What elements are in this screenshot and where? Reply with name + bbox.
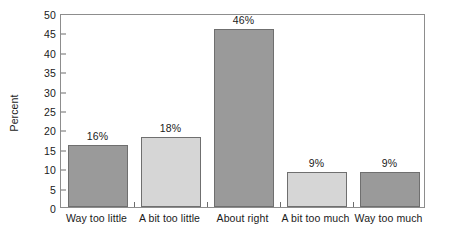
y-tick-label: 25	[44, 106, 56, 118]
bar-value-label: 18%	[160, 122, 181, 134]
y-axis-title: Percent	[8, 78, 20, 148]
y-tick-label: 35	[44, 67, 56, 79]
x-axis-label: A bit too little	[139, 212, 200, 224]
bars-layer: 16%18%46%9%9%	[61, 15, 424, 207]
bar-group: 16%	[68, 13, 128, 207]
x-tick-mark	[280, 202, 281, 207]
y-tick-label: 5	[50, 184, 56, 196]
bar	[68, 145, 128, 207]
y-tick-label: 50	[44, 9, 56, 21]
bar-value-label: 9%	[309, 157, 324, 169]
y-tick-label: 30	[44, 87, 56, 99]
plot-area: 05101520253035404550 16%18%46%9%9%	[60, 14, 425, 208]
y-tick-label: 15	[44, 145, 56, 157]
x-tick-mark	[207, 202, 208, 207]
bar	[287, 172, 347, 207]
bar-group: 18%	[141, 13, 201, 207]
bar-group: 46%	[214, 13, 274, 207]
y-tick-label: 10	[44, 164, 56, 176]
x-tick-mark	[353, 202, 354, 207]
bar-value-label: 46%	[233, 14, 254, 26]
bar-value-label: 16%	[87, 130, 108, 142]
x-axis-label: About right	[217, 212, 269, 224]
x-tick-mark	[134, 202, 135, 207]
bar	[141, 137, 201, 207]
y-tick-label: 40	[44, 48, 56, 60]
y-tick-label: 45	[44, 28, 56, 40]
bar-value-label: 9%	[382, 157, 397, 169]
x-axis-label: Way too much	[355, 212, 423, 224]
y-tick-label: 0	[50, 203, 56, 215]
bar-chart: Percent 05101520253035404550 16%18%46%9%…	[0, 0, 452, 239]
bar-group: 9%	[287, 13, 347, 207]
bar-group: 9%	[360, 13, 420, 207]
y-tick-label: 20	[44, 125, 56, 137]
x-axis-label: Way too little	[66, 212, 127, 224]
bar	[214, 29, 274, 207]
bar	[360, 172, 420, 207]
x-axis-label: A bit too much	[282, 212, 350, 224]
